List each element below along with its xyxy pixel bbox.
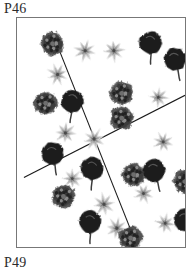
bloom-head: [59, 88, 86, 115]
plot-box: [16, 17, 186, 248]
flower-marker-textured-bloom: [39, 29, 66, 58]
flower-marker-dark-bloom: [163, 46, 185, 82]
bloom-head: [138, 30, 163, 55]
bloom-head: [163, 46, 185, 72]
figure-root: P46 P49: [0, 0, 193, 272]
bloom-head: [41, 141, 65, 165]
flower-marker-textured-bloom: [104, 101, 138, 135]
flower-scatter-canvas: [17, 18, 185, 247]
flower-marker-dark-bloom: [78, 155, 105, 191]
flower-marker-group: [30, 29, 185, 247]
bloom-head: [173, 207, 185, 232]
flower-marker-textured-bloom: [47, 180, 82, 215]
flower-marker-light-star: [54, 121, 77, 144]
page-label-top: P46: [4, 2, 26, 16]
flower-marker-light-star: [99, 36, 129, 66]
flower-marker-light-star: [145, 83, 173, 111]
flower-marker-textured-bloom: [106, 78, 137, 108]
flower-marker-textured-bloom: [30, 87, 62, 119]
bloom-head: [79, 155, 105, 181]
flower-marker-dark-bloom: [137, 30, 163, 65]
flower-marker-textured-bloom: [170, 166, 185, 197]
flower-marker-light-star: [70, 36, 99, 66]
flower-marker-dark-bloom: [41, 141, 66, 176]
page-label-bottom: P49: [4, 256, 26, 270]
flower-marker-light-star: [78, 122, 110, 155]
flower-marker-light-star: [41, 59, 72, 91]
flower-marker-light-star: [150, 129, 176, 155]
bloom-head: [141, 157, 168, 184]
flower-marker-dark-bloom: [77, 209, 103, 245]
